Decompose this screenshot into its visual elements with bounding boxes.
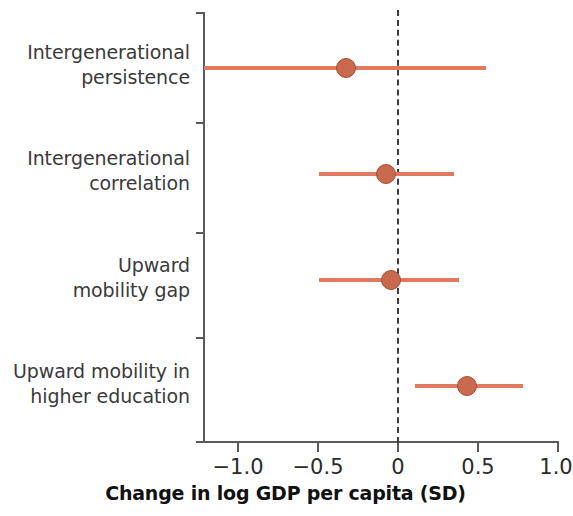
x-tick-label-0.5: 0.5 (461, 455, 494, 479)
x-tick-label-1.0: 1.0 (539, 455, 572, 479)
zero-reference-line (397, 10, 399, 443)
y-axis-tick-1 (196, 122, 204, 124)
x-axis-title: Change in log GDP per capita (SD) (0, 482, 571, 504)
y-axis-tick-3 (196, 337, 204, 339)
y-axis-tick-2 (196, 232, 204, 234)
estimate-point-row-4[interactable] (457, 376, 477, 396)
x-axis-spine (203, 441, 559, 443)
y-axis-spine (203, 12, 205, 443)
x-axis-tick-1.0 (557, 443, 559, 452)
x-tick-label--0.5: −0.5 (293, 455, 344, 479)
x-tick-label-0: 0 (391, 455, 404, 479)
x-tick-label--1.0: −1.0 (213, 455, 264, 479)
x-axis-tick--1.0 (237, 443, 239, 452)
estimate-point-row-2[interactable] (376, 164, 396, 184)
estimate-point-row-3[interactable] (381, 270, 401, 290)
x-axis-tick-0.5 (477, 443, 479, 452)
y-axis-tick-top (196, 12, 204, 14)
x-axis-tick--0.5 (317, 443, 319, 452)
estimate-point-row-1[interactable] (336, 58, 356, 78)
y-axis-tick-bottom (196, 441, 204, 443)
x-axis-tick-0 (397, 443, 399, 452)
